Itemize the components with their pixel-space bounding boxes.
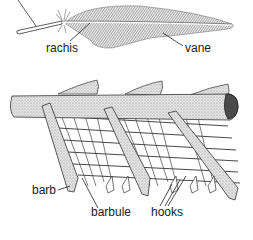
- label-barb: barb: [32, 184, 56, 196]
- label-vane: vane: [185, 42, 211, 54]
- label-hooks: hooks: [151, 206, 183, 218]
- label-barbule: barbule: [91, 206, 131, 218]
- label-rachis: rachis: [46, 42, 78, 54]
